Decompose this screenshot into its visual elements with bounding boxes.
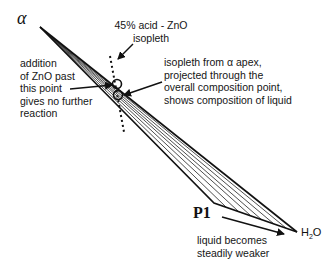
isopleth-alpha-label: isopleth from α apex, projected through … xyxy=(164,56,292,106)
addition-line5: reaction xyxy=(20,107,92,120)
water-label-o: O xyxy=(313,226,322,238)
isopleth-alpha-line4: shows composition of liquid xyxy=(164,94,292,107)
p1-point-label: P1 xyxy=(193,204,211,222)
isopleth-alpha-line2: projected through the xyxy=(164,69,292,82)
addition-line3: this point xyxy=(20,82,92,95)
water-label: H2O xyxy=(301,226,321,240)
alpha-apex-label: α xyxy=(17,8,26,29)
addition-line2: of ZnO past xyxy=(20,70,92,83)
addition-line1: addition xyxy=(20,57,92,70)
isopleth-45-label: 45% acid - ZnO isopleth xyxy=(111,19,191,44)
isopleth-alpha-line3: overall composition point, xyxy=(164,81,292,94)
isopleth-45-line1: 45% acid - ZnO xyxy=(111,19,191,32)
addition-label: addition of ZnO past this point gives no… xyxy=(20,57,92,120)
liquid-line2: steadily weaker xyxy=(197,247,269,260)
weaker-arrow xyxy=(222,217,284,234)
isopleth-label-arrow xyxy=(118,44,133,59)
liquid-line1: liquid becomes xyxy=(197,234,269,247)
isopleth-45-line2: isopleth xyxy=(111,32,191,45)
addition-line4: gives no further xyxy=(20,95,92,108)
liquid-weaker-label: liquid becomes steadily weaker xyxy=(197,234,269,259)
isopleth-alpha-line1: isopleth from α apex, xyxy=(164,56,292,69)
limit-point-circle xyxy=(113,80,122,89)
alpha-isopleth-arrow xyxy=(124,82,162,95)
water-label-h: H xyxy=(301,226,309,238)
